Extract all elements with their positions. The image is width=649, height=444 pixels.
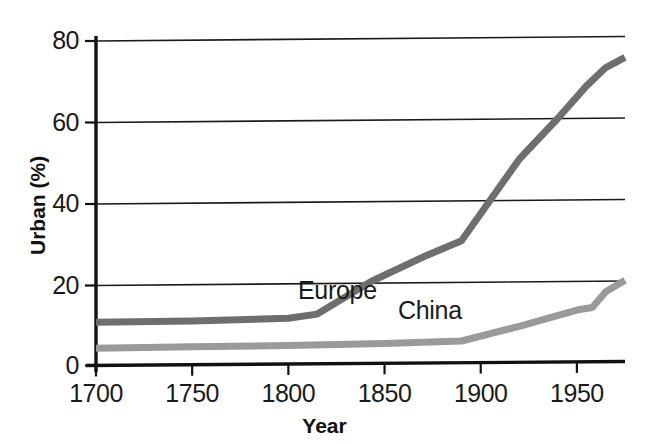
chart-plot-area [0,0,649,444]
series-label-europe: Europe [298,278,377,303]
gridline-y-40 [96,200,625,205]
x-axis-title: Year [0,415,649,436]
gridline-y-80 [96,37,625,42]
x-tick-label-1700: 1700 [51,381,141,406]
x-tick-label-1750: 1750 [147,381,237,406]
y-tick-label-80: 80 [52,28,79,53]
y-tick-label-0: 0 [66,353,79,378]
gridline-y-60 [96,118,625,123]
y-tick-label-40: 40 [52,191,79,216]
y-axis-title: Urban (%) [27,156,48,255]
x-tick-label-1800: 1800 [243,381,333,406]
x-axis-spine [86,362,625,366]
tick-mark-group [85,41,577,376]
x-tick-label-1900: 1900 [436,381,526,406]
y-tick-label-60: 60 [52,110,79,135]
x-tick-label-1850: 1850 [340,381,430,406]
gridline-group [96,37,625,286]
y-tick-label-20: 20 [52,273,79,298]
chart-figure: 020406080 170017501800185019001950 Europ… [0,0,649,444]
x-tick-label-1950: 1950 [532,381,622,406]
series-label-china: China [398,298,462,323]
